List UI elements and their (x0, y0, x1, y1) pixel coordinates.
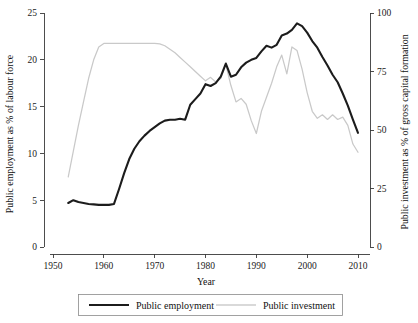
chart-legend: Public employment Public investment (79, 295, 343, 316)
legend-label-public-employment: Public employment (136, 300, 214, 311)
right-tick-label: 25 (377, 184, 387, 194)
right-tick-label: 0 (377, 242, 382, 252)
left-tick-label: 15 (28, 102, 38, 112)
x-tick-label: 2010 (349, 261, 368, 271)
right-axis-title: Public investment as % of gross capital … (399, 34, 410, 229)
x-tick-label: 2000 (298, 261, 317, 271)
legend-label-public-investment: Public investment (263, 300, 335, 311)
x-tick-label: 1960 (94, 261, 113, 271)
chart-figure: 0510152025 Public employment as % of lab… (0, 0, 418, 323)
left-tick-label: 25 (28, 8, 38, 18)
right-tick-label: 100 (377, 8, 392, 18)
right-tick-label: 75 (377, 67, 387, 77)
right-tick-label: 50 (377, 125, 387, 135)
left-axis-title: Public employment as % of labour force (4, 54, 15, 213)
x-tick-label: 1970 (145, 261, 164, 271)
chart-background (0, 0, 418, 323)
left-tick-label: 10 (28, 149, 38, 159)
x-axis-title: Year (197, 276, 216, 287)
x-tick-label: 1950 (44, 261, 63, 271)
left-tick-label: 20 (28, 55, 38, 65)
line-chart: 0510152025 Public employment as % of lab… (0, 0, 418, 323)
left-tick-label: 5 (32, 196, 37, 206)
x-tick-label: 1980 (196, 261, 215, 271)
x-tick-label: 1990 (247, 261, 266, 271)
left-tick-label: 0 (32, 242, 37, 252)
